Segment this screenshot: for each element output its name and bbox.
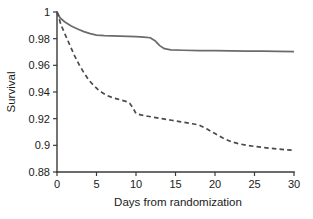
y-tick-labels: 0.880.90.920.940.960.981 [29, 6, 50, 178]
x-tick-label: 10 [130, 178, 142, 190]
x-tick-label: 15 [169, 178, 181, 190]
x-axis-group: 051015202530 [54, 172, 300, 190]
survival-plot-svg: 0.880.90.920.940.960.981 051015202530 Su… [0, 0, 313, 219]
x-tick-label: 20 [209, 178, 221, 190]
y-tick-label: 1 [44, 6, 50, 18]
y-tick-label: 0.88 [29, 166, 50, 178]
y-tick-label: 0.96 [29, 59, 50, 71]
y-tick-label: 0.92 [29, 113, 50, 125]
y-tick-label: 0.9 [35, 139, 50, 151]
x-tick-label: 25 [248, 178, 260, 190]
data-curves-group [57, 12, 294, 150]
y-tick-label: 0.98 [29, 33, 50, 45]
y-axis-group: 0.880.90.920.940.960.981 [29, 6, 57, 178]
x-tick-labels: 051015202530 [54, 178, 300, 190]
y-tick-label: 0.94 [29, 86, 50, 98]
x-tick-label: 5 [93, 178, 99, 190]
x-tick-label: 30 [288, 178, 300, 190]
solid-survival-curve [57, 12, 294, 52]
x-tick-label: 0 [54, 178, 60, 190]
survival-chart-figure: 0.880.90.920.940.960.981 051015202530 Su… [0, 0, 313, 219]
dashed-survival-curve [57, 12, 294, 150]
y-axis-label: Survival [5, 72, 17, 113]
x-axis-label: Days from randomization [114, 196, 242, 208]
